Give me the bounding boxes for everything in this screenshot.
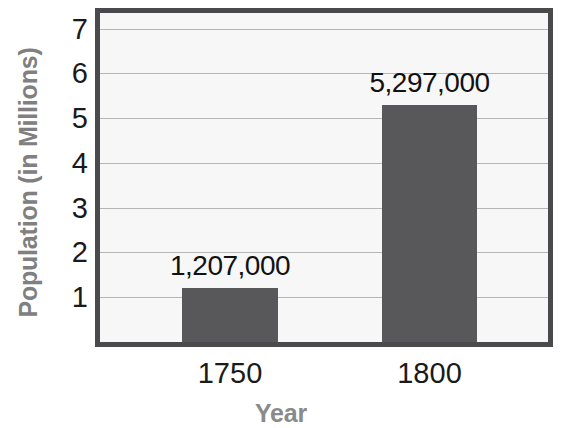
- x-axis-tick-label: 1800: [397, 357, 462, 390]
- gridline: [100, 163, 548, 164]
- bar-data-label: 5,297,000: [369, 67, 489, 99]
- gridline: [100, 29, 548, 30]
- y-axis-tick-labels: 1234567: [56, 0, 88, 360]
- gridline: [100, 118, 548, 119]
- gridline: [100, 252, 548, 253]
- bar-chart: Population (in Millions) 1234567 1,207,0…: [0, 0, 562, 428]
- y-axis-tick-label: 3: [56, 193, 88, 222]
- y-axis-tick-label: 4: [56, 148, 88, 177]
- y-axis-tick-label: 1: [56, 283, 88, 312]
- x-axis-title: Year: [0, 399, 562, 428]
- bar-data-label: 1,207,000: [170, 250, 290, 282]
- bar: [382, 105, 477, 342]
- plot-area: [100, 13, 548, 342]
- y-axis-tick-label: 7: [56, 14, 88, 43]
- x-axis-tick-label: 1750: [198, 357, 263, 390]
- y-axis-tick-label: 5: [56, 104, 88, 133]
- gridline: [100, 208, 548, 209]
- y-axis-tick-label: 2: [56, 238, 88, 267]
- bar: [182, 288, 278, 342]
- gridline: [100, 297, 548, 298]
- y-axis-tick-label: 6: [56, 59, 88, 88]
- plot-frame: [95, 8, 553, 347]
- y-axis-title: Population (in Millions): [14, 18, 43, 348]
